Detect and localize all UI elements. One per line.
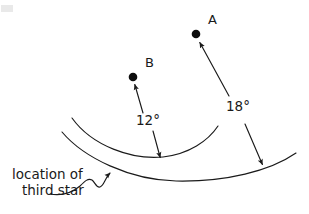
star-group <box>129 30 201 82</box>
diagram-canvas: A B 12° 18° location of third star <box>0 0 309 214</box>
star-b-label: B <box>145 55 154 70</box>
ray-to-star-a-lower-segment <box>245 124 262 165</box>
star-b-dot <box>129 73 138 82</box>
angle-label-18-degrees: 18° <box>226 98 250 114</box>
caption-line-two: third star <box>22 182 84 198</box>
star-a-label: A <box>208 12 217 27</box>
ray-to-star-b-lower-segment <box>153 131 160 158</box>
lower-arc-curve <box>62 132 296 181</box>
arc-group <box>62 118 296 181</box>
astronomy-diagram: A B 12° 18° location of third star <box>0 0 309 214</box>
caption-line-one: location of <box>12 166 84 182</box>
ray-to-star-b-upper-segment <box>135 85 143 114</box>
ray-to-star-a-upper-segment <box>200 43 229 97</box>
angle-label-12-degrees: 12° <box>136 112 160 128</box>
corner-artifact <box>1 5 13 12</box>
star-a-dot <box>192 30 201 39</box>
